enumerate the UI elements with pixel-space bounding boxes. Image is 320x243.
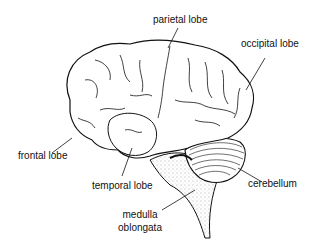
label-frontal-lobe: frontal lobe xyxy=(18,150,67,161)
label-temporal-lobe: temporal lobe xyxy=(92,180,153,191)
label-oblongata: oblongata xyxy=(114,222,166,233)
leader-occipital xyxy=(246,58,265,90)
label-medulla: medulla xyxy=(118,209,162,220)
label-parietal-lobe: parietal lobe xyxy=(153,14,207,25)
label-occipital-lobe: occipital lobe xyxy=(241,38,299,49)
brain-illustration xyxy=(0,0,320,243)
label-cerebellum: cerebellum xyxy=(248,178,297,189)
